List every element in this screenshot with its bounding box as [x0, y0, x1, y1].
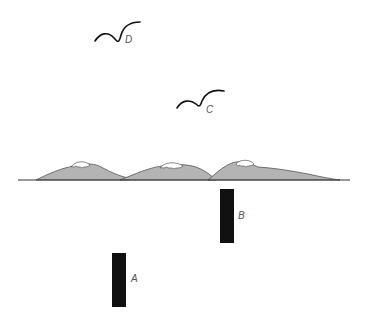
- bird-c-icon: [177, 90, 224, 108]
- bird-d-icon: [95, 22, 140, 41]
- mountain-range: [18, 160, 350, 180]
- label-a: A: [131, 273, 138, 284]
- label-d: D: [125, 34, 132, 45]
- bar-b: [220, 189, 234, 243]
- scene-canvas: [0, 0, 366, 322]
- hill-right: [208, 162, 340, 180]
- bar-a: [112, 253, 126, 307]
- label-c: C: [206, 104, 213, 115]
- label-b: B: [238, 210, 245, 221]
